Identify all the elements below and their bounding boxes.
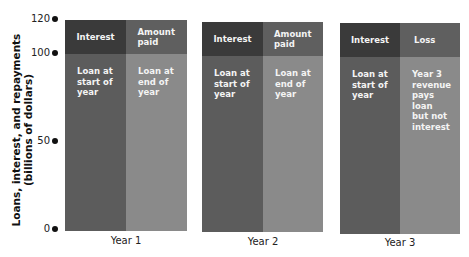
panel-year-3: Interest Loss Loan at start of year Year…	[340, 23, 460, 234]
y-tick-100: 100	[18, 47, 58, 58]
segment-loss: Loss	[400, 23, 460, 57]
tick-dot-icon	[52, 226, 58, 232]
segment-interest: Interest	[65, 20, 126, 54]
y-axis-label: Loans, interest, and repayments (billion…	[10, 30, 34, 230]
x-label-year-1: Year 1	[65, 235, 187, 246]
segment-year3-revenue: Year 3 revenue pays loan but not interes…	[400, 57, 460, 234]
segment-loan-end: Loan at end of year	[263, 56, 323, 232]
segment-amount-paid: Amount paid	[263, 22, 323, 56]
segment-amount-paid: Amount paid	[126, 20, 187, 54]
segment-loan-start: Loan at start of year	[65, 54, 126, 231]
segment-interest: Interest	[202, 22, 263, 56]
y-tick-0: 0	[18, 223, 58, 234]
y-tick-50: 50	[18, 135, 58, 146]
segment-loan-end: Loan at end of year	[126, 54, 187, 231]
y-tick-120: 120	[18, 13, 58, 24]
x-label-year-3: Year 3	[339, 237, 461, 248]
panel-year-1: Interest Amount paid Loan at start of ye…	[65, 20, 187, 231]
x-label-year-2: Year 2	[202, 236, 324, 247]
y-axis-label-line1: Loans, interest, and repayments	[10, 30, 22, 230]
panel-year-2: Interest Amount paid Loan at start of ye…	[202, 22, 323, 232]
tick-dot-icon	[52, 138, 58, 144]
segment-loan-start: Loan at start of year	[202, 56, 263, 232]
tick-dot-icon	[52, 50, 58, 56]
segment-loan-start: Loan at start of year	[340, 57, 400, 234]
y-axis-label-line2: (billions of dollars)	[22, 30, 34, 230]
tick-dot-icon	[52, 16, 58, 22]
segment-interest: Interest	[340, 23, 400, 57]
